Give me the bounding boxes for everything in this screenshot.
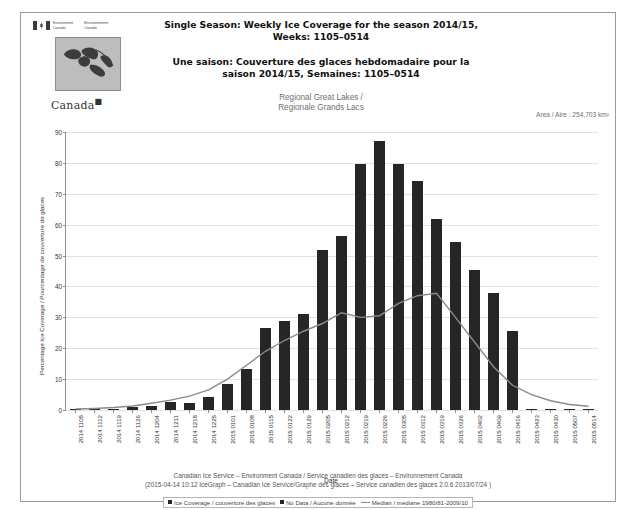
area-annotation: Area / Aire : 254,703 km² xyxy=(536,111,609,118)
x-axis-tick-mark xyxy=(436,410,437,413)
median-line-swatch-icon xyxy=(361,502,370,503)
x-axis-tick-mark xyxy=(113,410,114,413)
chart-title-french: Une saison: Couverture des glaces hebdom… xyxy=(161,56,481,81)
x-axis-tick-label: 2015 0507 xyxy=(571,415,578,444)
x-axis-tick-mark xyxy=(341,410,342,413)
plot-area: Percentage Ice Coverage / Pourcentage de… xyxy=(29,125,607,425)
x-axis-tick-label: 2014 1126 xyxy=(134,415,141,443)
median-line-series xyxy=(66,132,598,410)
x-axis-tick-mark xyxy=(474,410,475,413)
x-axis-tick-label: 2015 0402 xyxy=(476,415,483,444)
legend-label-nodata: No Data / Aucune donnée xyxy=(286,499,356,506)
x-axis-tick-label: 2015 0326 xyxy=(457,415,464,444)
x-axis-tick-label: 2015 0312 xyxy=(419,415,426,444)
legend-label-median: Median / médiane 1980/81-2009/10 xyxy=(372,499,468,506)
chart-titles: Single Season: Weekly Ice Coverage for t… xyxy=(161,19,481,114)
nodata-swatch-icon xyxy=(280,500,284,504)
wordmark-english: Environment Canada xyxy=(53,21,73,30)
footer-attribution: Canadian Ice Service – Environment Canad… xyxy=(21,471,615,480)
median-polyline xyxy=(76,293,589,409)
x-axis-tick-label: 2015 0305 xyxy=(400,415,407,444)
y-axis-tick-label: 90 xyxy=(55,129,62,136)
x-axis-tick-mark xyxy=(322,410,323,413)
x-axis-tick-label: 2015 0101 xyxy=(229,415,236,444)
ice-coverage-chart-page: Environment Canada Environnement Canada xyxy=(0,0,634,510)
chart-frame: Environment Canada Environnement Canada xyxy=(20,12,616,502)
y-axis-tick-label: 30 xyxy=(55,314,62,321)
x-axis-tick-mark xyxy=(379,410,380,413)
y-axis-tick-label: 20 xyxy=(55,345,62,352)
x-axis-tick-mark xyxy=(303,410,304,413)
x-axis-tick-label: 2015 0205 xyxy=(324,415,331,444)
x-axis-tick-label: 2014 1119 xyxy=(115,415,122,443)
x-axis-tick-label: 2015 0108 xyxy=(248,415,255,444)
branding-block: Environment Canada Environnement Canada xyxy=(29,19,149,119)
x-axis-tick-mark xyxy=(417,410,418,413)
x-axis-tick-mark xyxy=(265,410,266,413)
x-axis-tick-label: 2015 0430 xyxy=(552,415,559,444)
x-axis-tick-label: 2015 0416 xyxy=(514,415,521,444)
x-axis-tick-label: 2015 0122 xyxy=(286,415,293,444)
gridline xyxy=(66,410,598,411)
wordmark-french: Environnement Canada xyxy=(84,21,108,30)
y-axis-title: Percentage Ice Coverage / Pourcentage de… xyxy=(29,185,41,375)
y-axis-tick-label: 40 xyxy=(55,283,62,290)
y-axis-tick-mark xyxy=(63,410,66,411)
x-axis-tick-mark xyxy=(227,410,228,413)
footer-version: (2015-04-14 10:12 IceGraph – Canadian Ic… xyxy=(21,480,615,489)
canada-flag-icon xyxy=(33,21,50,30)
legend-item-coverage: Ice Coverage / couverture des glaces xyxy=(168,499,275,506)
x-axis-tick-mark xyxy=(512,410,513,413)
x-axis-tick-label: 2014 1218 xyxy=(191,415,198,444)
coverage-swatch-icon xyxy=(168,500,172,504)
y-axis-tick-label: 70 xyxy=(55,190,62,197)
x-axis-tick-mark xyxy=(569,410,570,413)
x-axis-tick-mark xyxy=(151,410,152,413)
region-label-en: Regional Great Lakes / xyxy=(161,93,481,104)
x-axis-tick-mark xyxy=(189,410,190,413)
x-axis-tick-label: 2014 1112 xyxy=(96,415,103,443)
legend-label-coverage: Ice Coverage / couverture des glaces xyxy=(174,499,275,506)
legend-item-nodata: No Data / Aucune donnée xyxy=(280,499,356,506)
region-label-fr: Regionale Grands Lacs xyxy=(161,103,481,114)
x-axis-tick-mark xyxy=(493,410,494,413)
x-axis-tick-mark xyxy=(75,410,76,413)
y-axis-tick-label: 10 xyxy=(55,376,62,383)
x-axis-tick-mark xyxy=(208,410,209,413)
x-axis-tick-mark xyxy=(94,410,95,413)
x-axis-tick-mark xyxy=(246,410,247,413)
chart-region-subtitle: Regional Great Lakes / Regionale Grands … xyxy=(161,93,481,114)
x-axis-tick-mark xyxy=(550,410,551,413)
x-axis-tick-mark xyxy=(588,410,589,413)
x-axis-tick-mark xyxy=(170,410,171,413)
x-axis-tick-label: 2015 0226 xyxy=(381,415,388,444)
canada-wordmark: Canada■ xyxy=(51,97,102,112)
x-axis-tick-label: 2014 1105 xyxy=(77,415,84,443)
x-axis-tick-mark xyxy=(132,410,133,413)
x-axis-tick-mark xyxy=(284,410,285,413)
x-axis-tick-mark xyxy=(531,410,532,413)
x-axis-tick-mark xyxy=(455,410,456,413)
chart-title-english: Single Season: Weekly Ice Coverage for t… xyxy=(161,19,481,44)
canada-flag-glyph-icon: ■ xyxy=(94,97,102,106)
x-axis-tick-label: 2015 0115 xyxy=(267,415,274,443)
chart-footer: Canadian Ice Service – Environment Canad… xyxy=(21,471,615,508)
x-axis-tick-label: 2015 0129 xyxy=(305,415,312,444)
x-axis-tick-label: 2014 1225 xyxy=(210,415,217,444)
y-axis-tick-label: 80 xyxy=(55,159,62,166)
x-axis-tick-label: 2015 0514 xyxy=(590,415,597,444)
x-axis-tick-label: 2014 1204 xyxy=(153,415,160,444)
x-axis-tick-label: 2015 0219 xyxy=(362,415,369,444)
y-axis-tick-label: 50 xyxy=(55,252,62,259)
x-axis-tick-label: 2015 0409 xyxy=(495,415,502,444)
x-axis-tick-label: 2015 0423 xyxy=(533,415,540,444)
legend-item-median: Median / médiane 1980/81-2009/10 xyxy=(361,499,468,506)
chart-legend: Ice Coverage / couverture des glaces No … xyxy=(163,497,473,508)
x-axis-tick-label: 2015 0212 xyxy=(343,415,350,444)
x-axis-tick-mark xyxy=(398,410,399,413)
great-lakes-map-image xyxy=(55,37,121,91)
x-axis-tick-label: 2014 1211 xyxy=(172,415,179,443)
plot-canvas: 0102030405060708090 xyxy=(65,132,598,411)
y-axis-tick-label: 0 xyxy=(58,407,62,414)
y-axis-tick-label: 60 xyxy=(55,221,62,228)
